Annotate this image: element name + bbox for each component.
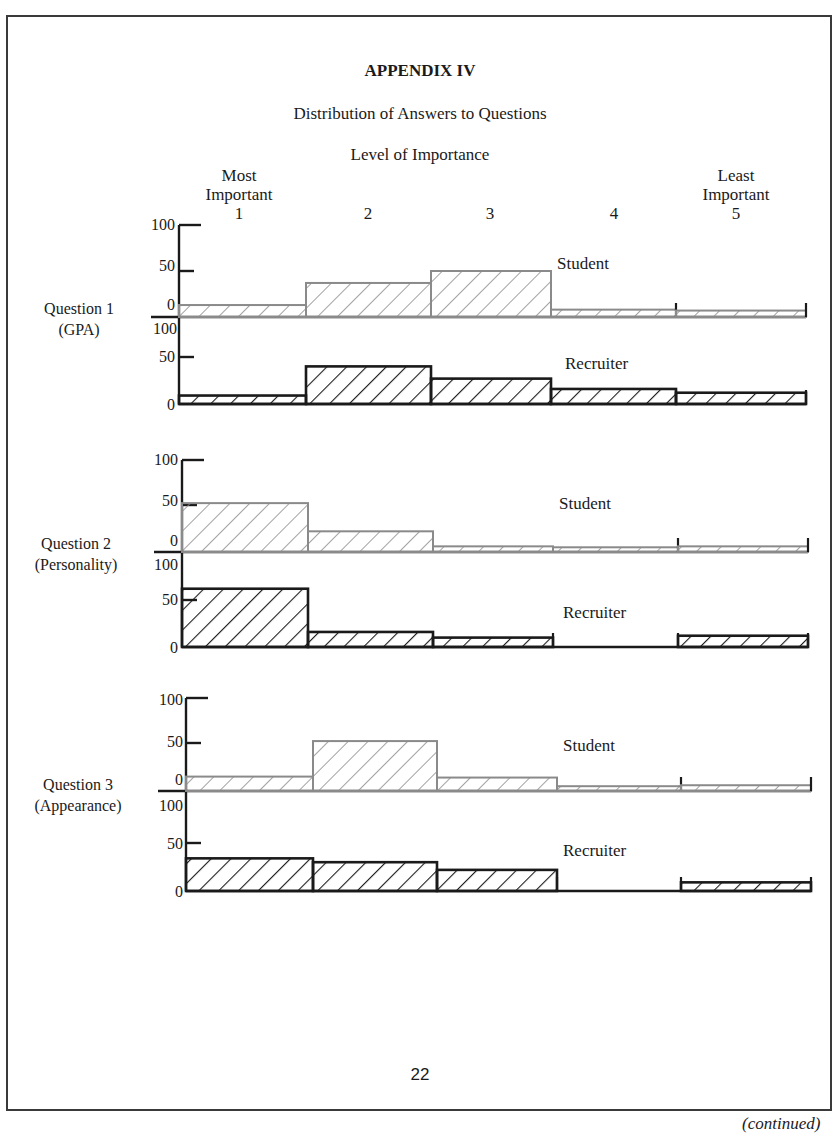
q3-student-bar-4 (557, 786, 681, 791)
q3-recruiter-bar-3 (437, 870, 557, 891)
q2-student-bar-2 (308, 531, 433, 552)
q2-student-bar-1 (182, 503, 308, 552)
q1-recruiter-bar-2 (306, 366, 431, 404)
q2-student-bar-4 (553, 547, 678, 552)
q2-student-bar-5 (678, 546, 808, 552)
q3-recruiter-bar-5 (681, 882, 811, 891)
q2-recruiter-bar-3 (433, 638, 553, 647)
q1-student-bar-3 (431, 271, 551, 317)
q3-student-bar-5 (681, 785, 811, 791)
q2-student-bar-3 (433, 546, 553, 552)
q1-student-bar-4 (551, 310, 676, 317)
q1-recruiter-bar-4 (551, 389, 676, 404)
q1-student-bar-2 (306, 283, 431, 317)
page-number: 22 (0, 1065, 840, 1085)
q1-student-bar-5 (676, 311, 806, 317)
q2-recruiter-bar-2 (308, 632, 433, 647)
q2-recruiter-bar-1 (182, 589, 308, 647)
q3-student-bar-3 (437, 778, 557, 791)
q2-recruiter-bar-5 (678, 636, 808, 647)
q1-recruiter-bar-5 (676, 393, 806, 404)
q1-recruiter-bar-3 (431, 379, 551, 404)
q3-student-bar-1 (186, 777, 313, 791)
q1-student-bar-1 (179, 305, 306, 317)
q3-recruiter-bar-1 (186, 858, 313, 891)
q1-recruiter-bar-1 (179, 396, 306, 404)
q3-recruiter-bar-2 (313, 862, 437, 891)
q3-student-bar-2 (313, 741, 437, 791)
continued-note: (continued) (742, 1114, 820, 1134)
